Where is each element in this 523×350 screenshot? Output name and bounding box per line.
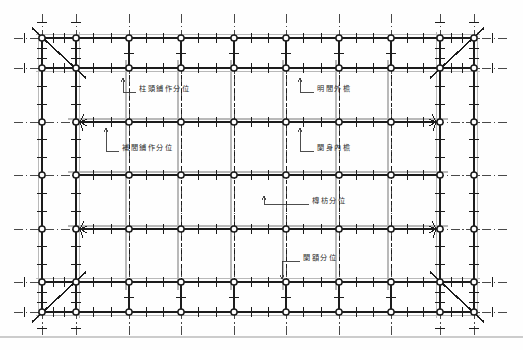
column-node bbox=[437, 119, 443, 125]
column-node bbox=[471, 35, 477, 41]
column-node bbox=[437, 35, 443, 41]
structural-line-layer bbox=[42, 0, 474, 312]
annotation-label-zhutou: 柱頭鋪作分位 bbox=[139, 85, 191, 92]
column-node bbox=[283, 172, 289, 178]
column-node bbox=[73, 172, 79, 178]
annotation-label-mingjian: 明間外檐 bbox=[317, 85, 351, 92]
column-node bbox=[388, 119, 394, 125]
column-node bbox=[178, 226, 184, 232]
column-node bbox=[336, 279, 342, 285]
column-node bbox=[178, 119, 184, 125]
column-node bbox=[178, 279, 184, 285]
annotation-label-lan_e: 闌額分位 bbox=[303, 254, 337, 261]
column-node bbox=[231, 226, 237, 232]
column-node bbox=[231, 309, 237, 315]
column-node bbox=[231, 65, 237, 71]
column-node bbox=[283, 309, 289, 315]
column-node bbox=[471, 119, 477, 125]
column-node bbox=[336, 309, 342, 315]
column-node bbox=[437, 279, 443, 285]
column-node bbox=[39, 172, 45, 178]
column-node bbox=[39, 226, 45, 232]
column-node bbox=[231, 172, 237, 178]
column-node bbox=[336, 226, 342, 232]
column-node bbox=[388, 65, 394, 71]
column-node bbox=[437, 172, 443, 178]
column-node bbox=[437, 309, 443, 315]
column-node bbox=[178, 35, 184, 41]
column-node bbox=[39, 309, 45, 315]
column-node bbox=[126, 309, 132, 315]
column-node bbox=[231, 279, 237, 285]
column-node bbox=[283, 35, 289, 41]
annotation-label-bujian: 補間鋪作分位 bbox=[122, 144, 174, 151]
column-node bbox=[471, 226, 477, 232]
column-node bbox=[437, 65, 443, 71]
column-node bbox=[39, 65, 45, 71]
column-node bbox=[126, 172, 132, 178]
column-node bbox=[73, 65, 79, 71]
column-node bbox=[39, 279, 45, 285]
column-node bbox=[126, 226, 132, 232]
column-node bbox=[388, 172, 394, 178]
annotation-label-tuanfang: 槫枋分位 bbox=[312, 197, 346, 204]
column-node bbox=[126, 119, 132, 125]
column-node bbox=[388, 35, 394, 41]
column-node bbox=[388, 279, 394, 285]
column-node bbox=[388, 226, 394, 232]
column-node bbox=[336, 172, 342, 178]
column-node bbox=[231, 119, 237, 125]
column-node bbox=[73, 119, 79, 125]
column-node bbox=[336, 119, 342, 125]
column-node bbox=[39, 35, 45, 41]
column-node bbox=[336, 35, 342, 41]
column-node bbox=[283, 226, 289, 232]
column-node bbox=[471, 309, 477, 315]
column-node bbox=[283, 65, 289, 71]
column-node bbox=[73, 35, 79, 41]
architectural-plan-drawing bbox=[0, 0, 523, 350]
column-node bbox=[126, 35, 132, 41]
column-node bbox=[471, 172, 477, 178]
column-node bbox=[73, 226, 79, 232]
annotation-label-jianshen: 闌身內檐 bbox=[317, 144, 351, 151]
column-node bbox=[388, 309, 394, 315]
column-node bbox=[231, 35, 237, 41]
column-node bbox=[126, 279, 132, 285]
column-node bbox=[336, 65, 342, 71]
column-node bbox=[437, 226, 443, 232]
column-node bbox=[73, 309, 79, 315]
figure-canvas: 柱頭鋪作分位明間外檐補間鋪作分位闌身內檐槫枋分位闌額分位 bbox=[0, 0, 523, 350]
column-node bbox=[471, 65, 477, 71]
column-node bbox=[471, 279, 477, 285]
column-node bbox=[178, 172, 184, 178]
column-node bbox=[39, 119, 45, 125]
column-node bbox=[178, 309, 184, 315]
column-node bbox=[73, 279, 79, 285]
column-node bbox=[178, 65, 184, 71]
column-node bbox=[283, 119, 289, 125]
column-node bbox=[283, 279, 289, 285]
column-node bbox=[126, 65, 132, 71]
